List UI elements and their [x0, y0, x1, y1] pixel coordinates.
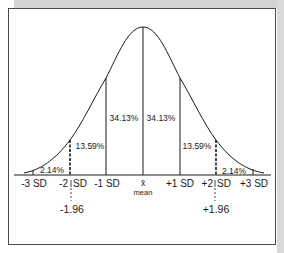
tick-label-plus2sd-suffix: SD — [217, 178, 231, 189]
normal-distribution-diagram: 2.14% 13.59% 34.13% 34.13% 13.59% 2.14% … — [0, 0, 284, 253]
region-label-minus3-minus2: 2.14% — [40, 165, 65, 175]
tick-label-minus2sd-suffix: SD — [73, 178, 87, 189]
critical-value-positive: +1.96 — [203, 203, 230, 215]
region-label-minus2-minus1: 13.59% — [76, 141, 105, 151]
tick-label-plus3sd: +3 SD — [240, 178, 268, 189]
tick-label-plus2sd-prefix: +2 — [202, 178, 214, 189]
tick-label-minus1sd: -1 SD — [94, 178, 120, 189]
tick-label-plus1sd: +1 SD — [166, 178, 194, 189]
critical-value-negative: -1.96 — [60, 203, 84, 215]
mean-label: mean — [134, 188, 153, 197]
tick-label-mean-symbol: x̄ — [141, 178, 146, 188]
region-label-minus1-mean: 34.13% — [110, 113, 139, 123]
tick-label-minus2sd-prefix: -2 — [59, 178, 68, 189]
bell-curve — [24, 27, 264, 173]
tick-label-minus3sd: -3 SD — [21, 178, 47, 189]
region-label-plus2-plus3: 2.14% — [222, 166, 247, 176]
region-label-plus1-plus2: 13.59% — [183, 141, 212, 151]
region-label-mean-plus1: 34.13% — [147, 113, 176, 123]
